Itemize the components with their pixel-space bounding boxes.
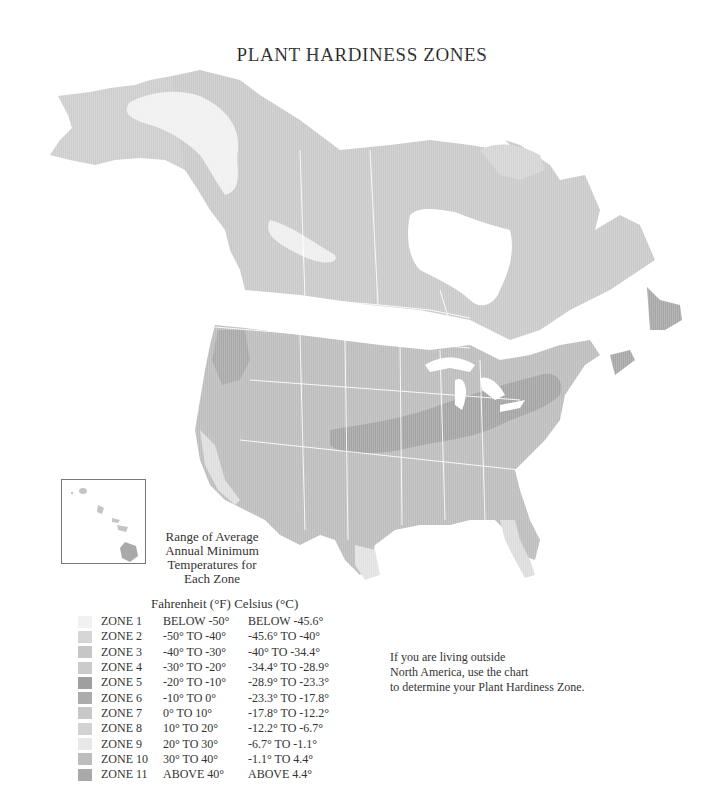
zone-celsius: BELOW -45.6°: [248, 614, 323, 629]
hawaii-inset: [61, 479, 146, 564]
zone-fahrenheit: -10° TO 0°: [163, 691, 248, 706]
legend-header: Fahrenheit (°F) Celsius (°C): [151, 596, 298, 612]
zone-label: ZONE 11: [101, 767, 163, 782]
hawaii-islands: [62, 480, 145, 563]
zone-swatch: [78, 616, 92, 628]
legend-row: ZONE 2-50° TO -40°-45.6° TO -40°: [78, 629, 329, 644]
zone-swatch: [78, 677, 92, 689]
newfoundland: [647, 287, 682, 330]
zone-celsius: -1.1° TO 4.4°: [248, 752, 313, 767]
note-line: to determine your Plant Hardiness Zone.: [390, 680, 585, 695]
zone-label: ZONE 9: [101, 737, 163, 752]
range-caption-line: Annual Minimum: [150, 544, 274, 558]
zone-swatch: [78, 631, 92, 643]
zone-swatch: [78, 662, 92, 674]
zone-swatch: [78, 738, 92, 750]
zone-swatch: [78, 769, 92, 781]
note-line: North America, use the chart: [390, 665, 585, 680]
zone-celsius: -6.7° TO -1.1°: [248, 737, 317, 752]
legend-row: ZONE 810° TO 20°-12.2° TO -6.7°: [78, 721, 329, 736]
zone-fahrenheit: -40° TO -30°: [163, 645, 248, 660]
legend-row: ZONE 1BELOW -50°BELOW -45.6°: [78, 614, 329, 629]
zone-fahrenheit: 10° TO 20°: [163, 721, 248, 736]
zone-label: ZONE 7: [101, 706, 163, 721]
zone-fahrenheit: 30° TO 40°: [163, 752, 248, 767]
zone-fahrenheit: ABOVE 40°: [163, 767, 248, 782]
zone-label: ZONE 8: [101, 721, 163, 736]
zone-swatch: [78, 707, 92, 719]
zone-fahrenheit: 0° TO 10°: [163, 706, 248, 721]
zone-legend: ZONE 1BELOW -50°BELOW -45.6°ZONE 2-50° T…: [78, 614, 329, 782]
legend-row: ZONE 1030° TO 40°-1.1° TO 4.4°: [78, 752, 329, 767]
zone-label: ZONE 5: [101, 675, 163, 690]
zone-swatch: [78, 723, 92, 735]
zone-label: ZONE 6: [101, 691, 163, 706]
legend-row: ZONE 70° TO 10°-17.8° TO -12.2°: [78, 706, 329, 721]
zone-swatch: [78, 646, 92, 658]
legend-row: ZONE 920° TO 30°-6.7° TO -1.1°: [78, 736, 329, 751]
legend-row: ZONE 6-10° TO 0°-23.3° TO -17.8°: [78, 690, 329, 705]
zone-fahrenheit: 20° TO 30°: [163, 737, 248, 752]
zone-celsius: -40° TO -34.4°: [248, 645, 320, 660]
zone-celsius: -23.3° TO -17.8°: [248, 691, 329, 706]
range-caption: Range of Average Annual Minimum Temperat…: [150, 530, 274, 586]
legend-row: ZONE 11ABOVE 40°ABOVE 4.4°: [78, 767, 329, 782]
range-caption-line: Each Zone: [150, 572, 274, 586]
note-line: If you are living outside: [390, 650, 585, 665]
zone-label: ZONE 2: [101, 629, 163, 644]
nova-scotia: [610, 350, 635, 375]
legend-row: ZONE 5-20° TO -10°-28.9° TO -23.3°: [78, 675, 329, 690]
outside-na-note: If you are living outside North America,…: [390, 650, 585, 695]
zone-fahrenheit: -50° TO -40°: [163, 629, 248, 644]
zone-fahrenheit: -30° TO -20°: [163, 660, 248, 675]
canada-region: [172, 70, 655, 340]
zone-label: ZONE 1: [101, 614, 163, 629]
zone-label: ZONE 3: [101, 645, 163, 660]
zone-celsius: -17.8° TO -12.2°: [248, 706, 329, 721]
range-caption-line: Range of Average: [150, 530, 274, 544]
legend-row: ZONE 4-30° TO -20°-34.4° TO -28.9°: [78, 660, 329, 675]
texas-coast: [355, 545, 380, 580]
zone-celsius: -28.9° TO -23.3°: [248, 675, 329, 690]
zone-fahrenheit: BELOW -50°: [163, 614, 248, 629]
range-caption-line: Temperatures for: [150, 558, 274, 572]
zone-fahrenheit: -20° TO -10°: [163, 675, 248, 690]
zone-swatch: [78, 753, 92, 765]
zone-celsius: ABOVE 4.4°: [248, 767, 312, 782]
legend-header-celsius: Celsius (°C): [234, 596, 298, 611]
zone-celsius: -34.4° TO -28.9°: [248, 660, 329, 675]
zone-celsius: -45.6° TO -40°: [248, 629, 320, 644]
legend-row: ZONE 3-40° TO -30°-40° TO -34.4°: [78, 645, 329, 660]
zone-swatch: [78, 692, 92, 704]
legend-header-fahrenheit: Fahrenheit (°F): [151, 596, 231, 611]
zone-label: ZONE 10: [101, 752, 163, 767]
zone-celsius: -12.2° TO -6.7°: [248, 721, 323, 736]
zone-label: ZONE 4: [101, 660, 163, 675]
